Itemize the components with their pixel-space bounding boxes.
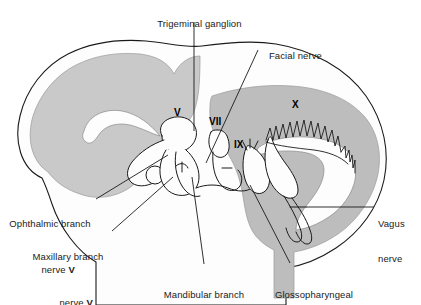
label-maxillary-branch-nerve-word: nerve xyxy=(59,297,86,305)
roman-marker-x: X xyxy=(292,99,299,110)
label-facial-nerve-text: Facial nerve xyxy=(269,50,322,61)
label-maxillary-branch-numeral: V xyxy=(87,297,93,305)
label-vagus-nerve: Vagus nerve xyxy=(378,195,421,287)
label-vagus-nerve-line2: nerve xyxy=(378,253,421,265)
label-trigeminal-ganglion: Trigeminal ganglion xyxy=(118,6,270,41)
label-glossopharyngeal-nerve: Glossopharyngeal nerve xyxy=(264,266,364,305)
label-mandibular-branch: Mandibular branch nerve V xyxy=(152,266,256,305)
label-glossopharyngeal-nerve-line1: Glossopharyngeal xyxy=(264,289,364,301)
label-maxillary-branch: Maxillary branch nerve V xyxy=(22,228,114,305)
label-mandibular-branch-line1: Mandibular branch xyxy=(152,289,256,301)
label-maxillary-branch-line1: Maxillary branch xyxy=(22,251,114,263)
label-maxillary-branch-line2: nerve V xyxy=(22,286,114,305)
cranial-nerve-diagram: V VII IX X Trigeminal ganglion Facial ne… xyxy=(0,0,421,305)
roman-marker-vii: VII xyxy=(209,116,221,127)
label-trigeminal-ganglion-text: Trigeminal ganglion xyxy=(157,18,241,29)
roman-marker-v: V xyxy=(174,107,181,118)
label-vagus-nerve-line1: Vagus xyxy=(378,218,421,230)
roman-marker-ix: IX xyxy=(234,139,243,150)
label-facial-nerve: Facial nerve xyxy=(258,38,368,73)
